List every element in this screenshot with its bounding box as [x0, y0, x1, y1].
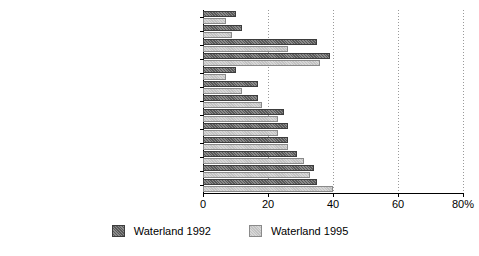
bar-waterland-1995 [203, 116, 278, 122]
chart-legend: Waterland 1992Waterland 1995 [0, 225, 460, 237]
x-tick-label: 40 [311, 198, 355, 210]
bar-waterland-1992 [203, 151, 297, 157]
bar-waterland-1992 [203, 25, 242, 31]
gridline [463, 10, 464, 193]
x-tick-label: 20 [246, 198, 290, 210]
chart-row: emotional exhaustion [203, 66, 463, 80]
bar-waterland-1992 [203, 95, 258, 101]
x-tick-label: 60 [376, 198, 420, 210]
x-tick-mark [203, 193, 204, 197]
chart-row: emotional stress [203, 24, 463, 38]
legend-label: Waterland 1992 [134, 225, 211, 237]
legend-swatch [249, 225, 262, 237]
x-tick-mark [398, 193, 399, 197]
bar-waterland-1995 [203, 88, 242, 94]
bar-waterland-1992 [203, 165, 314, 171]
bar-waterland-1995 [203, 144, 288, 150]
chart-row: physical load [203, 52, 463, 66]
legend-label: Waterland 1995 [271, 225, 348, 237]
bar-waterland-1995 [203, 186, 333, 192]
chart-row: organisation of work [203, 122, 463, 136]
bar-waterland-1995 [203, 102, 262, 108]
chart-row: workpace [203, 178, 463, 192]
bar-waterland-1995 [203, 46, 288, 52]
x-tick-mark [268, 193, 269, 197]
plot-area: job contentemotional stressappreciation … [203, 10, 463, 192]
chart-row: sickness behaviour [203, 136, 463, 150]
bar-waterland-1995 [203, 158, 304, 164]
x-tick-mark [463, 193, 464, 197]
chart-row: job content [203, 10, 463, 24]
bar-waterland-1995 [203, 130, 278, 136]
x-tick-label: 80% [441, 198, 479, 210]
chart-row: autonomy [203, 150, 463, 164]
bar-waterland-1992 [203, 109, 284, 115]
chart-row: health complaints [203, 80, 463, 94]
chart-row: appreciation reward and prospects [203, 38, 463, 52]
bar-waterland-1992 [203, 67, 236, 73]
bar-waterland-1992 [203, 39, 317, 45]
legend-item: Waterland 1995 [249, 225, 348, 237]
bar-waterland-1992 [203, 53, 330, 59]
bar-waterland-1995 [203, 60, 320, 66]
bar-waterland-1992 [203, 123, 288, 129]
x-tick-mark [333, 193, 334, 197]
legend-swatch [112, 225, 125, 237]
legend-item: Waterland 1992 [112, 225, 211, 237]
bar-waterland-1995 [203, 74, 226, 80]
bar-waterland-1992 [203, 137, 288, 143]
chart-row: psychological and physical effort [203, 164, 463, 178]
chart-row: physical working conditions [203, 108, 463, 122]
bar-waterland-1992 [203, 11, 236, 17]
chart-row: supervision and co-workers [203, 94, 463, 108]
bar-waterland-1995 [203, 32, 232, 38]
bar-waterland-1995 [203, 18, 226, 24]
bar-waterland-1995 [203, 172, 310, 178]
bar-waterland-1992 [203, 81, 258, 87]
bar-waterland-1992 [203, 179, 317, 185]
x-tick-label: 0 [181, 198, 225, 210]
